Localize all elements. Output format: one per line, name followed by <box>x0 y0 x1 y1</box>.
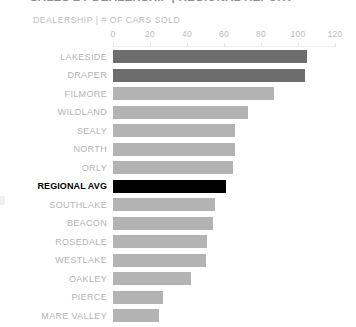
bar-row[interactable]: WESTLAKE <box>0 252 356 271</box>
category-label: NORTH <box>0 144 107 154</box>
bar-row[interactable]: BEACON <box>0 215 356 234</box>
x-tickmark <box>187 43 188 46</box>
x-tick-label: 0 <box>110 29 115 39</box>
x-tick-label: 80 <box>256 29 266 39</box>
bar-row[interactable]: SOUTHLAKE <box>0 196 356 215</box>
bar-row[interactable]: WILDLAND <box>0 104 356 123</box>
category-label: ORLY <box>0 163 107 173</box>
category-label: BEACON <box>0 218 107 228</box>
x-tickmark <box>335 43 336 46</box>
bar-row[interactable]: PIERCE <box>0 289 356 308</box>
bar[interactable] <box>113 124 235 137</box>
bar-row[interactable]: MARE VALLEY <box>0 307 356 326</box>
bar-row[interactable]: ORLY <box>0 159 356 178</box>
x-tickmark <box>150 43 151 46</box>
category-label: FILMORE <box>0 89 107 99</box>
category-label: MARE VALLEY <box>0 311 107 321</box>
bar[interactable] <box>113 235 207 248</box>
x-tickmark <box>261 43 262 46</box>
x-tick-label: 60 <box>219 29 229 39</box>
bar-row[interactable]: NORTH <box>0 141 356 160</box>
bar-row[interactable]: LAKESIDE <box>0 48 356 67</box>
bar-row[interactable]: OAKLEY <box>0 270 356 289</box>
bar[interactable] <box>113 291 163 304</box>
category-label: LAKESIDE <box>0 52 107 62</box>
category-label: SEALY <box>0 126 107 136</box>
x-tick-label: 100 <box>290 29 305 39</box>
x-tickmark <box>224 43 225 46</box>
category-label: OAKLEY <box>0 274 107 284</box>
x-tick-label: 20 <box>145 29 155 39</box>
bar-row[interactable]: DRAPER <box>0 67 356 86</box>
bar[interactable] <box>113 161 233 174</box>
bar[interactable] <box>113 69 305 82</box>
bar[interactable] <box>113 272 191 285</box>
x-tickmark <box>298 43 299 46</box>
bar[interactable] <box>113 180 226 193</box>
bar[interactable] <box>113 87 274 100</box>
bar-chart: SALES BY DEALERSHIP | REGIONAL REPORT DE… <box>0 0 356 327</box>
x-axis-tick-labels: 020406080100120 <box>113 29 335 41</box>
bar-row[interactable]: SEALY <box>0 122 356 141</box>
bar-row[interactable]: REGIONAL AVG <box>0 178 356 197</box>
category-label: PIERCE <box>0 292 107 302</box>
x-axis-line <box>113 46 336 47</box>
x-tick-label: 120 <box>327 29 342 39</box>
bar[interactable] <box>113 254 206 267</box>
bar[interactable] <box>113 309 159 322</box>
bar-row[interactable]: ROSEDALE <box>0 233 356 252</box>
category-label: SOUTHLAKE <box>0 200 107 210</box>
bar[interactable] <box>113 217 213 230</box>
bar-row[interactable]: FILMORE <box>0 85 356 104</box>
category-label: REGIONAL AVG <box>0 181 107 191</box>
category-label: ROSEDALE <box>0 237 107 247</box>
x-tick-label: 40 <box>182 29 192 39</box>
edge-artifact <box>0 196 5 205</box>
chart-title: SALES BY DEALERSHIP | REGIONAL REPORT <box>30 0 330 3</box>
category-label: WILDLAND <box>0 107 107 117</box>
bar[interactable] <box>113 50 307 63</box>
chart-subtitle: DEALERSHIP | # OF CARS SOLD <box>33 15 180 25</box>
x-tickmark <box>113 43 114 46</box>
bar[interactable] <box>113 106 248 119</box>
bar[interactable] <box>113 198 215 211</box>
category-label: WESTLAKE <box>0 255 107 265</box>
bar[interactable] <box>113 143 235 156</box>
category-label: DRAPER <box>0 70 107 80</box>
